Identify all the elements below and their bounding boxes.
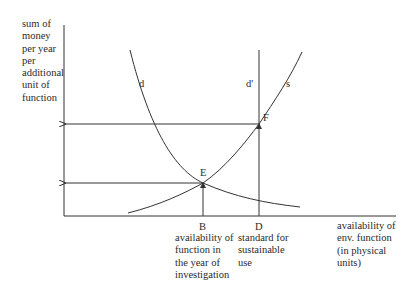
point-label-e: E [200,167,206,179]
x-axis-label: availability of env. function (in physic… [337,220,396,269]
curve-label-d: d [139,78,144,90]
curve-label-d-prime: d' [246,78,253,90]
marker-description-b: availability of function in the year of … [175,232,234,281]
point-label-f: F [263,112,269,124]
marker-description-d: standard for sustainable use [238,232,288,269]
y-axis-label: sum of money per year per additional uni… [22,18,64,104]
curve-label-s: s [286,78,290,90]
supply-curve-s [128,52,302,213]
